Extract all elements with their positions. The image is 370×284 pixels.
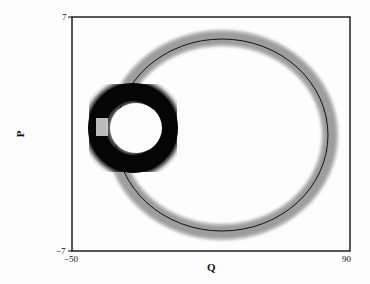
- phase-plot: 7 −7 −50 90 Q P: [0, 0, 370, 284]
- x-min-label: −50: [64, 254, 79, 264]
- y-max-label: 7: [62, 12, 67, 22]
- x-max-label: 90: [342, 254, 352, 264]
- x-axis-title: Q: [207, 261, 216, 273]
- y-axis-title: P: [14, 130, 26, 137]
- inner-loop: [96, 92, 169, 164]
